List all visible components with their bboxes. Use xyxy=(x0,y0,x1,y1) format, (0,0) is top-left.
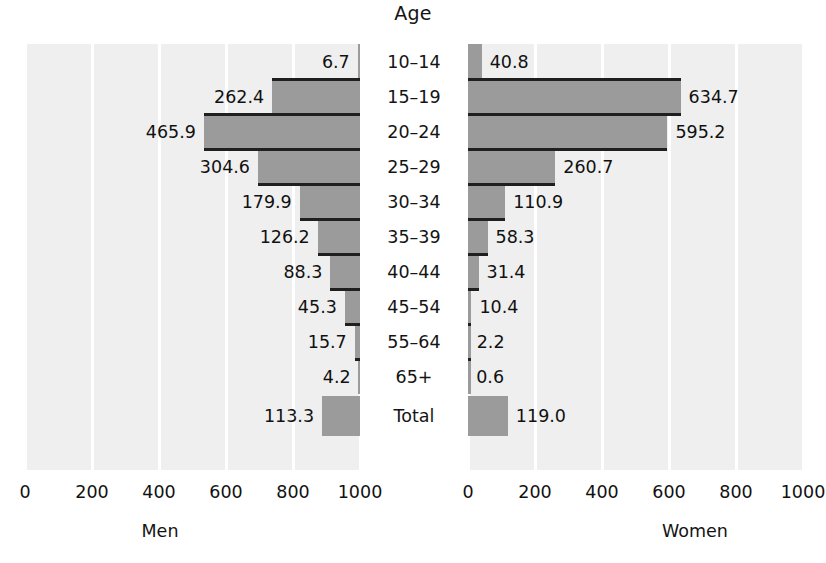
bar-women xyxy=(468,184,505,219)
bar-value-women: 40.8 xyxy=(490,52,529,72)
bar-value-men: 304.6 xyxy=(200,157,250,177)
bar-row-total: 113.3Total119.0 xyxy=(0,396,826,436)
bar-women xyxy=(468,324,471,359)
axis-tick-label: 400 xyxy=(585,482,618,502)
bar-women xyxy=(468,396,508,436)
bar-row: 15.755–642.2 xyxy=(0,324,826,359)
bar-value-women: 2.2 xyxy=(477,332,505,352)
bar-value-men: 465.9 xyxy=(146,122,196,142)
bar-value-men: 6.7 xyxy=(322,52,350,72)
bar-women xyxy=(468,359,471,394)
bar-men xyxy=(258,149,360,184)
bar-value-men: 4.2 xyxy=(323,367,351,387)
axis-tick-label: 200 xyxy=(518,482,551,502)
bar-separator xyxy=(468,358,471,361)
bar-separator xyxy=(318,253,360,256)
age-group-label: Total xyxy=(360,406,468,426)
bar-container-women xyxy=(468,114,803,149)
bar-men xyxy=(300,184,360,219)
bar-row: 262.415–19634.7 xyxy=(0,79,826,114)
bar-separator xyxy=(204,148,360,151)
bar-women xyxy=(468,149,555,184)
bar-separator xyxy=(355,358,360,361)
population-pyramid-chart: Age 6.710–1440.8262.415–19634.7465.920–2… xyxy=(0,0,826,563)
axis-tick-label: 0 xyxy=(462,482,473,502)
age-group-label: 40–44 xyxy=(360,262,468,282)
bar-separator xyxy=(468,183,555,186)
bar-women xyxy=(468,44,482,79)
bar-separator xyxy=(204,113,360,116)
bar-separator xyxy=(468,148,667,151)
bar-value-women: 31.4 xyxy=(487,262,526,282)
bar-women xyxy=(468,289,471,324)
bar-value-women: 260.7 xyxy=(563,157,613,177)
bar-value-men: 179.9 xyxy=(242,192,292,212)
bar-row: 4.265+0.6 xyxy=(0,359,826,394)
age-group-label: 55–64 xyxy=(360,332,468,352)
axis-tick-label: 1000 xyxy=(781,482,826,502)
age-group-label: 20–24 xyxy=(360,122,468,142)
bar-women xyxy=(468,219,488,254)
x-axis-men: 10008006004002000 xyxy=(25,482,360,506)
axis-caption-men: Men xyxy=(25,521,295,541)
age-group-label: 45–54 xyxy=(360,297,468,317)
bar-men xyxy=(204,114,360,149)
bar-container-men xyxy=(25,79,360,114)
bar-container-women xyxy=(468,149,803,184)
bar-value-men: 88.3 xyxy=(283,262,322,282)
bar-men xyxy=(322,396,360,436)
bar-separator xyxy=(300,218,360,221)
bar-value-women: 119.0 xyxy=(516,406,566,426)
bar-value-women: 110.9 xyxy=(513,192,563,212)
age-group-label: 25–29 xyxy=(360,157,468,177)
chart-title: Age xyxy=(0,2,826,24)
bar-row: 465.920–24595.2 xyxy=(0,114,826,149)
bar-men xyxy=(318,219,360,254)
axis-tick-label: 600 xyxy=(209,482,242,502)
bar-container-women xyxy=(468,359,803,394)
bar-women xyxy=(468,79,681,114)
bar-women xyxy=(468,254,479,289)
bar-value-men: 45.3 xyxy=(298,297,337,317)
axis-tick-label: 0 xyxy=(19,482,30,502)
bar-separator xyxy=(468,323,471,326)
bar-container-women xyxy=(468,324,803,359)
axis-caption-women: Women xyxy=(560,521,826,541)
bar-men xyxy=(345,289,360,324)
bar-value-men: 15.7 xyxy=(308,332,347,352)
bar-rows: 6.710–1440.8262.415–19634.7465.920–24595… xyxy=(0,44,826,470)
bar-row: 179.930–34110.9 xyxy=(0,184,826,219)
x-axis-women: 02004006008001000 xyxy=(468,482,803,506)
bar-container-men xyxy=(25,149,360,184)
age-group-label: 30–34 xyxy=(360,192,468,212)
bar-value-men: 126.2 xyxy=(260,227,310,247)
bar-men xyxy=(272,79,360,114)
bar-row: 304.625–29260.7 xyxy=(0,149,826,184)
bar-value-women: 58.3 xyxy=(496,227,535,247)
axis-tick-label: 800 xyxy=(719,482,752,502)
bar-separator xyxy=(468,78,681,81)
bar-men xyxy=(330,254,360,289)
age-group-label: 10–14 xyxy=(360,52,468,72)
axis-tick-label: 200 xyxy=(75,482,108,502)
bar-separator xyxy=(330,288,360,291)
bar-separator xyxy=(272,78,360,81)
bar-separator xyxy=(468,288,479,291)
bar-women xyxy=(468,114,667,149)
bar-row: 88.340–4431.4 xyxy=(0,254,826,289)
age-group-label: 65+ xyxy=(360,367,468,387)
bar-separator xyxy=(468,218,505,221)
bar-container-men xyxy=(25,219,360,254)
axis-tick-label: 1000 xyxy=(338,482,383,502)
axis-tick-label: 800 xyxy=(276,482,309,502)
bar-value-men: 262.4 xyxy=(214,87,264,107)
axis-tick-label: 600 xyxy=(652,482,685,502)
bar-row: 45.345–5410.4 xyxy=(0,289,826,324)
bar-value-women: 0.6 xyxy=(476,367,504,387)
bar-separator xyxy=(258,183,360,186)
bar-value-men: 113.3 xyxy=(264,406,314,426)
bar-row: 126.235–3958.3 xyxy=(0,219,826,254)
axis-tick-label: 400 xyxy=(142,482,175,502)
bar-separator xyxy=(468,253,488,256)
bar-separator xyxy=(345,323,360,326)
